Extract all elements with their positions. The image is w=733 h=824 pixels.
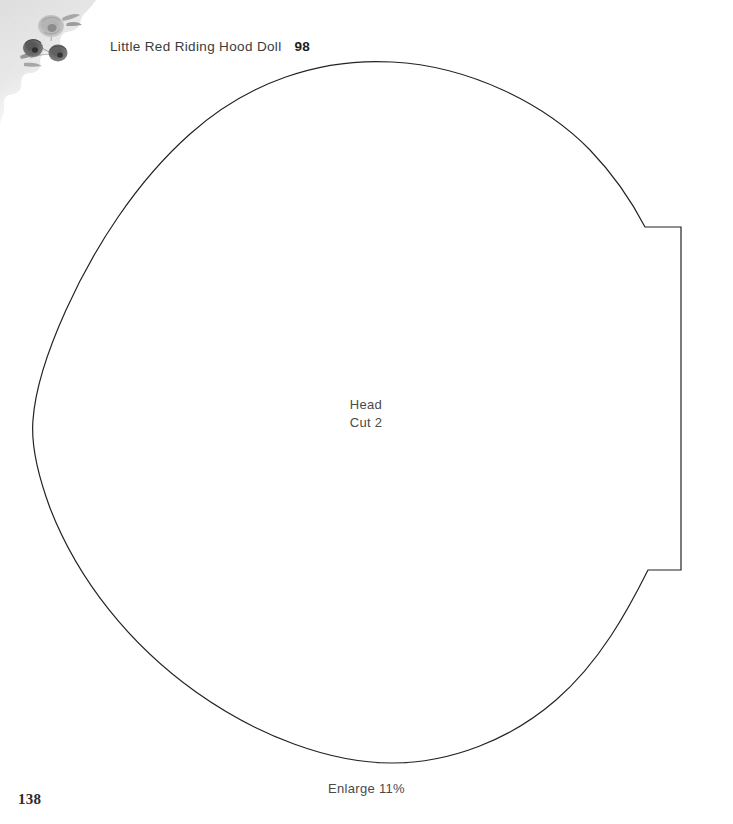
pattern-page: Little Red Riding Hood Doll 98 Head Cut … (0, 0, 733, 824)
piece-label: Head Cut 2 (0, 396, 733, 432)
page-number: 138 (18, 791, 41, 808)
piece-name: Head (0, 396, 733, 414)
piece-cut-instruction: Cut 2 (0, 414, 733, 432)
enlarge-note: Enlarge 11% (0, 781, 733, 796)
